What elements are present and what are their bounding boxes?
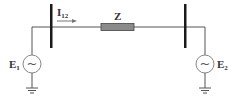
ac-symbol-right: ~	[200, 56, 211, 71]
source-e2-label: E2	[217, 58, 228, 72]
impedance-box	[101, 24, 134, 31]
bus-2	[184, 4, 187, 48]
ground-left-icon	[26, 88, 38, 93]
impedance-label: Z	[114, 10, 121, 22]
current-label: I12	[57, 6, 69, 20]
power-system-diagram: I12 Z ~ E1 ~ E2	[0, 0, 246, 101]
ground-right-icon	[199, 88, 211, 93]
source-e1-label: E1	[9, 58, 20, 72]
ac-symbol-left: ~	[27, 56, 38, 71]
bus-1	[50, 4, 53, 48]
